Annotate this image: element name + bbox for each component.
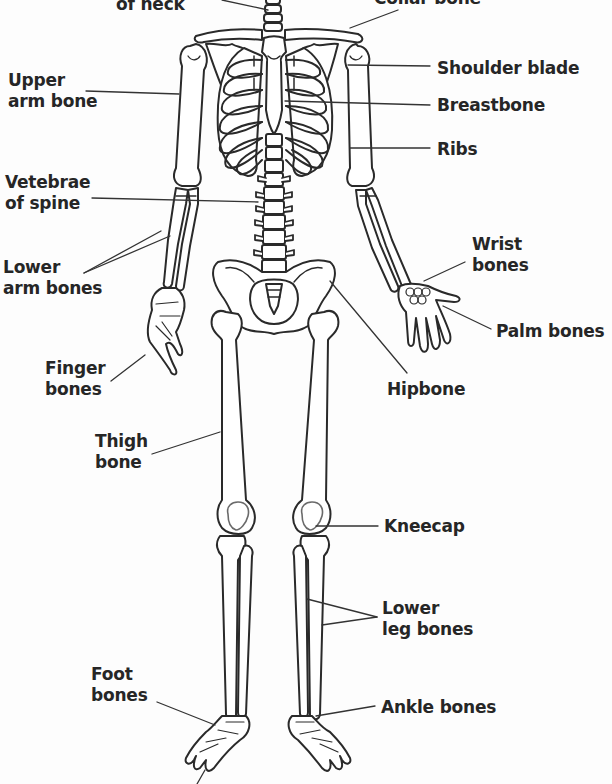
label-line: of spine <box>5 193 90 214</box>
label-thigh-bone: Thigh bone <box>95 431 148 473</box>
label-ribs: Ribs <box>437 139 477 160</box>
label-line: arm bones <box>3 278 102 299</box>
label-lower-leg-bones: Lower leg bones <box>382 598 473 640</box>
label-line: Palm bones <box>496 321 605 342</box>
label-ankle-bones: Ankle bones <box>381 697 496 718</box>
lower-leg-bones <box>217 536 329 720</box>
label-line: Ankle bones <box>381 697 496 718</box>
spine-vertebrae <box>254 134 294 274</box>
label-line: bone <box>95 452 148 473</box>
label-collar-bone: Collar bone <box>374 0 481 9</box>
label-line: Lower <box>3 257 102 278</box>
leader-foot-bones <box>157 702 215 725</box>
label-breastbone: Breastbone <box>437 95 545 116</box>
leader-upper-arm-bone <box>86 91 179 94</box>
label-upper-arm-bone: Upper arm bone <box>8 70 97 112</box>
leader-thigh-bone <box>152 432 220 454</box>
label-line: bones <box>472 255 529 276</box>
label-line: of neck <box>116 0 185 15</box>
label-hipbone: Hipbone <box>387 379 465 400</box>
label-foot-bones: Foot bones <box>91 664 148 706</box>
label-line: Thigh <box>95 431 148 452</box>
label-line: Collar bone <box>374 0 481 9</box>
right-arm-bones <box>345 44 459 352</box>
skeleton-diagram: of neck Collar bone Upper arm bone Shoul… <box>0 0 612 784</box>
label-wrist-bones: Wrist bones <box>472 234 529 276</box>
leader-lower-leg-bones-b <box>322 617 377 625</box>
thigh-bones <box>212 311 339 534</box>
label-shoulder-blade: Shoulder blade <box>437 58 579 79</box>
leader-finger-bones <box>111 355 145 381</box>
kneecaps <box>228 502 323 530</box>
label-finger-bones: Finger bones <box>45 358 105 400</box>
label-line: Kneecap <box>384 516 465 537</box>
label-neck-vertebrae: of neck <box>116 0 185 15</box>
label-line: Shoulder blade <box>437 58 579 79</box>
leader-wrist-bones <box>424 262 465 281</box>
leader-palm-bones <box>443 306 491 329</box>
label-line: leg bones <box>382 619 473 640</box>
label-line: arm bone <box>8 91 97 112</box>
breastbone-bone <box>262 37 286 135</box>
label-line: Lower <box>382 598 473 619</box>
label-kneecap: Kneecap <box>384 516 465 537</box>
label-palm-bones: Palm bones <box>496 321 605 342</box>
neck-vertebrae-bones <box>264 0 282 31</box>
leader-toe-cutoff <box>197 770 205 784</box>
leader-hipbone <box>330 281 407 373</box>
label-line: Finger <box>45 358 105 379</box>
feet-bones <box>186 716 351 771</box>
label-line: bones <box>45 379 105 400</box>
label-line: Ribs <box>437 139 477 160</box>
label-lower-arm-bones: Lower arm bones <box>3 257 102 299</box>
label-line: Hipbone <box>387 379 465 400</box>
label-line: Vetebrae <box>5 172 90 193</box>
label-line: Breastbone <box>437 95 545 116</box>
label-vertebrae-of-spine: Vetebrae of spine <box>5 172 90 214</box>
leader-neck-vertebrae <box>222 0 268 10</box>
leader-ankle-bones <box>316 706 375 716</box>
label-line: Wrist <box>472 234 529 255</box>
label-line: Foot <box>91 664 148 685</box>
label-line: bones <box>91 685 148 706</box>
label-line: Upper <box>8 70 97 91</box>
leader-collar-bone <box>350 10 398 28</box>
